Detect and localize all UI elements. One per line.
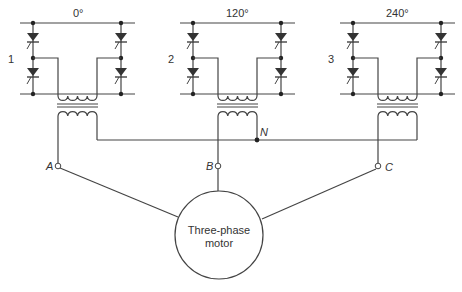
phase-label-1: 0°	[73, 7, 84, 19]
terminal-label-a: A	[45, 160, 53, 172]
section-number-3: 3	[328, 53, 334, 65]
phase-label-2: 120°	[226, 7, 249, 19]
terminal-a	[55, 163, 61, 169]
phase-label-3: 240°	[386, 7, 409, 19]
cycloconverter-diagram: 0° 120° 240° 1 2 3 N A B C Three-phase m…	[0, 0, 462, 292]
terminal-b	[215, 163, 221, 169]
converter-section-1	[20, 21, 135, 163]
neutral-node-dot	[255, 138, 260, 143]
motor-label-line2: motor	[205, 237, 233, 249]
neutral-label: N	[260, 126, 268, 138]
section-number-2: 2	[168, 53, 174, 65]
terminal-label-c: C	[385, 161, 393, 173]
motor-label-line1: Three-phase	[188, 224, 250, 236]
terminal-label-b: B	[206, 160, 213, 172]
terminal-c	[375, 163, 381, 169]
section-number-1: 1	[8, 53, 14, 65]
converter-section-2	[180, 21, 295, 163]
converter-section-3	[340, 21, 455, 163]
